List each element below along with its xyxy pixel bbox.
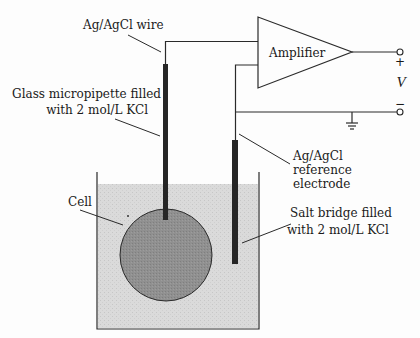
debris-dot [127, 215, 129, 217]
cell-label: Cell [68, 195, 92, 209]
plus-sign: + [395, 55, 405, 69]
reference-leader [239, 134, 290, 164]
amplifier: Amplifier [258, 17, 352, 88]
wire-label: Ag/AgCl wire [82, 18, 164, 32]
micropipette-label-2: with 2 mol/L KCl [46, 103, 148, 117]
ground-icon [346, 112, 358, 129]
micropipette-leader [115, 119, 160, 136]
salt-bridge-label-2: with 2 mol/L KCl [287, 223, 389, 237]
cell [120, 209, 212, 301]
wire-leader [128, 35, 161, 52]
micropipette [163, 41, 168, 220]
diagram-svg: Amplifier + V − Ag/AgCl wire Glass micro… [0, 0, 420, 338]
reference-label-1: Ag/AgCl [292, 149, 343, 163]
output-terminal-minus[interactable] [397, 109, 403, 115]
voltage-symbol: V [396, 74, 407, 90]
salt-bridge [232, 140, 238, 264]
reference-label-3: electrode [293, 177, 350, 191]
reference-label-2: reference [293, 163, 352, 177]
micropipette-label-1: Glass micropipette filled [12, 87, 161, 101]
salt-bridge-label-1: Salt bridge filled [290, 206, 392, 220]
micropipette-body [163, 64, 168, 220]
reference-wire [236, 65, 259, 140]
amplifier-label: Amplifier [268, 46, 326, 60]
diagram-canvas: Amplifier + V − Ag/AgCl wire Glass micro… [0, 0, 420, 338]
